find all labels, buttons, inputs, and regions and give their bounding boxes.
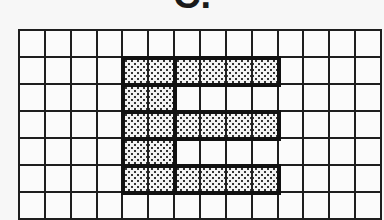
- grid-cell: [149, 193, 175, 220]
- grid-cell: [201, 85, 227, 112]
- grid-cell-filled: [227, 58, 253, 85]
- grid-cell: [20, 139, 46, 166]
- grid-cell: [356, 31, 382, 58]
- grid-cell: [330, 112, 356, 139]
- grid-cell-filled: [123, 139, 149, 166]
- grid-cell: [98, 31, 124, 58]
- grid-cell: [98, 58, 124, 85]
- grid-cell: [46, 193, 72, 220]
- grid-cell-filled: [253, 112, 279, 139]
- grid-cell: [98, 112, 124, 139]
- grid-cell-filled: [227, 112, 253, 139]
- grid-cell-filled: [149, 139, 175, 166]
- grid-cell: [304, 139, 330, 166]
- grid-cell: [98, 193, 124, 220]
- grid-cell-filled: [123, 85, 149, 112]
- grid-cell: [330, 193, 356, 220]
- grid-cell: [72, 193, 98, 220]
- grid-cell: [304, 58, 330, 85]
- grid-cell-filled: [175, 58, 201, 85]
- grid-cell: [304, 31, 330, 58]
- grid-cell: [20, 31, 46, 58]
- grid-cell: [72, 166, 98, 193]
- grid-cell: [20, 58, 46, 85]
- grid-cell: [330, 31, 356, 58]
- grid-cell: [149, 31, 175, 58]
- grid-cell: [330, 58, 356, 85]
- grid-cell: [330, 139, 356, 166]
- grid-cell: [72, 139, 98, 166]
- grid-cell: [356, 166, 382, 193]
- grid-cell: [356, 139, 382, 166]
- grid-cell: [279, 139, 305, 166]
- grid-cell: [356, 85, 382, 112]
- grid-cell: [253, 31, 279, 58]
- grid-cell: [304, 112, 330, 139]
- grid-cell: [72, 58, 98, 85]
- grid-cell: [123, 31, 149, 58]
- grid-cell: [20, 193, 46, 220]
- grid-cell: [20, 112, 46, 139]
- grid-cell: [227, 139, 253, 166]
- grid-cell: [72, 31, 98, 58]
- grid-cell: [46, 58, 72, 85]
- grid-cell: [175, 193, 201, 220]
- grid-cell: [20, 85, 46, 112]
- grid-cell: [279, 112, 305, 139]
- grid-cell: [123, 193, 149, 220]
- grid-cell-filled: [175, 112, 201, 139]
- grid-cell-filled: [149, 112, 175, 139]
- grid-cell: [253, 193, 279, 220]
- grid-cell: [279, 31, 305, 58]
- grid-cell: [279, 166, 305, 193]
- grid-cell-filled: [123, 112, 149, 139]
- grid-cell: [330, 166, 356, 193]
- grid-cell: [227, 85, 253, 112]
- grid-cell: [201, 139, 227, 166]
- grid-cell: [201, 193, 227, 220]
- grid-cell: [46, 112, 72, 139]
- grid-cell: [304, 166, 330, 193]
- grid-cell: [356, 112, 382, 139]
- grid-cell: [46, 166, 72, 193]
- grid-cell: [72, 112, 98, 139]
- grid-cell: [356, 58, 382, 85]
- grid-cell-filled: [149, 58, 175, 85]
- grid-cell: [175, 85, 201, 112]
- grid-cell: [279, 85, 305, 112]
- grid-cell: [356, 193, 382, 220]
- grid: [18, 29, 382, 220]
- grid-cell-filled: [149, 166, 175, 193]
- grid-cell: [304, 85, 330, 112]
- grid-cell: [175, 139, 201, 166]
- grid-cell: [46, 85, 72, 112]
- grid-cell: [279, 58, 305, 85]
- grid-cell: [330, 85, 356, 112]
- grid-cell-filled: [201, 166, 227, 193]
- grid-cell: [227, 193, 253, 220]
- grid-cell-filled: [201, 58, 227, 85]
- grid-cell: [253, 139, 279, 166]
- grid-cell-filled: [253, 58, 279, 85]
- grid-cell: [304, 193, 330, 220]
- grid-cell: [72, 85, 98, 112]
- grid-cell: [227, 31, 253, 58]
- grid-cell-filled: [227, 166, 253, 193]
- grid-cell-filled: [123, 58, 149, 85]
- grid-cell: [279, 193, 305, 220]
- grid-cell-filled: [253, 166, 279, 193]
- grid-cell: [46, 31, 72, 58]
- grid-cell-filled: [123, 166, 149, 193]
- grid-cell: [98, 139, 124, 166]
- grid-cell: [20, 166, 46, 193]
- grid-cell: [98, 166, 124, 193]
- grid-cell: [98, 85, 124, 112]
- grid-cell-filled: [149, 85, 175, 112]
- grid-cell: [253, 85, 279, 112]
- grid-cell-filled: [175, 166, 201, 193]
- grid-cell-filled: [201, 112, 227, 139]
- grid-cell: [175, 31, 201, 58]
- grid-cell: [201, 31, 227, 58]
- figure-label: C.: [0, 0, 384, 14]
- grid-cell: [46, 139, 72, 166]
